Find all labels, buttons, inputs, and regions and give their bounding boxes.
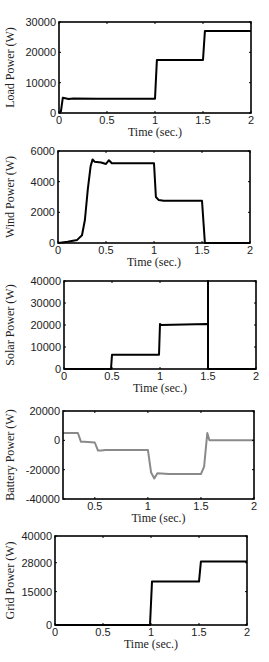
x-tick-label: 2: [251, 500, 257, 512]
y-tick-label: 20000: [30, 319, 61, 331]
chart-wind-power: 00.511.520200040006000Time (sec.)Wind Po…: [3, 145, 253, 269]
axes-box: [63, 411, 254, 499]
x-tick-label: 0.5: [95, 626, 110, 638]
y-tick-label: 6000: [31, 145, 55, 157]
y-tick-label: 15000: [21, 586, 52, 598]
y-tick-label: 20000: [25, 46, 56, 58]
y-tick-label: 30000: [30, 297, 61, 309]
x-tick-label: 2: [247, 244, 253, 256]
x-tick-label: 1.5: [200, 370, 215, 382]
y-tick-label: 0: [46, 619, 52, 631]
x-tick-label: 0: [56, 114, 62, 126]
y-tick-label: 0: [55, 363, 61, 375]
y-tick-label: -20000: [26, 464, 60, 476]
chart-solar-power: 00.511.52010000200003000040000Time (sec.…: [3, 275, 259, 395]
y-axis-label: Wind Power (W): [3, 156, 17, 238]
y-tick-label: 0: [50, 107, 56, 119]
x-tick-label: 1.5: [195, 114, 210, 126]
chart-grid-power: 00.511.520150002800040000Time (sec.)Grid…: [3, 530, 250, 651]
x-tick-label: 0: [52, 626, 58, 638]
y-tick-label: 28000: [21, 557, 52, 569]
x-tick-label: 0.5: [104, 370, 119, 382]
chart-battery-power: 0.511.52-40000-20000020000Time (sec.)Bat…: [3, 405, 257, 525]
y-tick-label: 40000: [30, 275, 61, 287]
y-tick-label: -40000: [26, 493, 60, 505]
y-tick-label: 10000: [25, 77, 56, 89]
x-tick-label: 2: [248, 114, 254, 126]
data-line: [55, 562, 247, 625]
x-tick-label: 0.5: [87, 500, 102, 512]
x-tick-label: 1.5: [193, 500, 208, 512]
x-axis-label: Time (sec.): [127, 255, 181, 269]
x-tick-label: 0: [55, 244, 61, 256]
x-tick-label: 2: [244, 626, 250, 638]
y-axis-label: Grid Power (W): [3, 542, 17, 620]
x-tick-label: 0: [61, 370, 67, 382]
y-tick-label: 4000: [31, 176, 55, 188]
x-axis-label: Time (sec.): [131, 511, 185, 525]
x-tick-label: 1.5: [191, 626, 206, 638]
x-axis-label: Time (sec.): [133, 381, 187, 395]
chart-load-power: 00.511.520100002000030000Time (sec.)Load…: [3, 16, 254, 139]
figure: 00.511.520100002000030000Time (sec.)Load…: [0, 0, 269, 662]
y-axis-label: Solar Power (W): [3, 284, 17, 365]
y-tick-label: 20000: [29, 405, 60, 417]
y-axis-label: Load Power (W): [3, 27, 17, 108]
x-tick-label: 0.5: [99, 114, 114, 126]
y-tick-label: 0: [54, 434, 60, 446]
data-line: [58, 159, 250, 243]
x-tick-label: 0.5: [98, 244, 113, 256]
y-tick-label: 2000: [31, 206, 55, 218]
y-tick-label: 40000: [21, 530, 52, 542]
y-tick-label: 0: [49, 237, 55, 249]
y-tick-label: 10000: [30, 341, 61, 353]
data-line: [59, 31, 251, 113]
y-axis-label: Battery Power (W): [3, 409, 17, 500]
x-axis-label: Time (sec.): [124, 637, 178, 651]
x-tick-label: 1.5: [194, 244, 209, 256]
y-tick-label: 30000: [25, 16, 56, 28]
data-line: [63, 433, 254, 479]
x-axis-label: Time (sec.): [128, 125, 182, 139]
data-line: [64, 281, 256, 369]
x-tick-label: 2: [253, 370, 259, 382]
